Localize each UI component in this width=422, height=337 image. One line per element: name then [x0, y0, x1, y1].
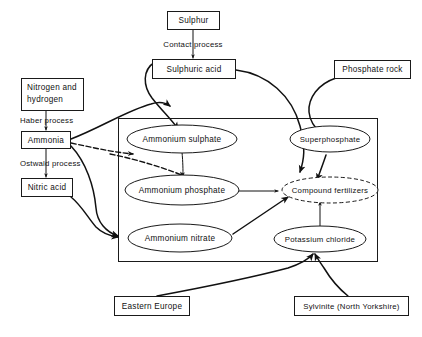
- node-ammonium-phosphate[interactable]: Ammonium phosphate: [125, 175, 239, 205]
- svg-text:Sulphuric acid: Sulphuric acid: [167, 65, 222, 74]
- node-sulphur[interactable]: Sulphur: [168, 12, 220, 30]
- node-sylvinite[interactable]: Sylvinite (North Yorkshire): [295, 297, 409, 316]
- edge-dashed-to-ammonium-phosphate: [110, 154, 184, 176]
- edge-eastern-europe-to-potassium-chloride: [157, 254, 313, 296]
- svg-text:Nitrogen and: Nitrogen and: [27, 83, 77, 92]
- node-nitric-acid[interactable]: Nitric acid: [22, 179, 73, 197]
- svg-text:Ammonium sulphate: Ammonium sulphate: [143, 135, 222, 144]
- node-sulphuric-acid[interactable]: Sulphuric acid: [153, 60, 236, 79]
- svg-text:Ammonia: Ammonia: [28, 136, 65, 145]
- node-potassium-chloride[interactable]: Potassium chloride: [274, 226, 366, 252]
- node-superphosphate[interactable]: Superphosphate: [290, 126, 370, 152]
- svg-text:Sulphur: Sulphur: [179, 16, 209, 25]
- edge-ammonium-sulphate-to-ammonium-phosphate: [182, 152, 183, 176]
- edge-sulphuric-acid-to-compound-fertilizers: [236, 70, 304, 172]
- edge-nitric-acid-to-ammonium-nitrate: [71, 197, 118, 237]
- svg-text:Potassium chloride: Potassium chloride: [285, 235, 355, 244]
- node-ammonia[interactable]: Ammonia: [22, 132, 71, 149]
- svg-text:Phosphate rock: Phosphate rock: [342, 65, 403, 74]
- edge-sylvinite-to-potassium-chloride: [315, 254, 348, 296]
- edge-label-haber-process: Haber process: [20, 116, 73, 125]
- edge-ammonia-to-phosphate-dashed-start: [71, 143, 133, 154]
- svg-text:Compound fertilizers: Compound fertilizers: [292, 186, 369, 195]
- edge-label-ostwald-process: Ostwald process: [20, 159, 81, 168]
- edge-phosphate-rock-to-superphosphate: [309, 78, 336, 133]
- svg-text:Ammonium phosphate: Ammonium phosphate: [139, 186, 226, 195]
- node-compound-fertilizers[interactable]: Compound fertilizers: [282, 177, 378, 203]
- svg-text:Ammonium nitrate: Ammonium nitrate: [145, 234, 216, 243]
- svg-text:Eastern Europe: Eastern Europe: [122, 302, 183, 311]
- node-eastern-europe[interactable]: Eastern Europe: [115, 297, 190, 316]
- node-phosphate-rock[interactable]: Phosphate rock: [335, 61, 411, 79]
- edge-ammonium-nitrate-to-compound-fertilizers: [233, 197, 288, 234]
- node-ammonium-nitrate[interactable]: Ammonium nitrate: [128, 224, 232, 252]
- diagram-canvas: Contact process Haber process Ostwald pr…: [0, 0, 422, 337]
- svg-text:hydrogen: hydrogen: [27, 95, 63, 104]
- node-ammonium-sulphate[interactable]: Ammonium sulphate: [127, 125, 237, 153]
- edge-label-contact-process: Contact process: [163, 40, 222, 49]
- svg-text:Sylvinite (North Yorkshire): Sylvinite (North Yorkshire): [303, 302, 400, 311]
- node-nitrogen-and-hydrogen[interactable]: Nitrogen and hydrogen: [22, 79, 84, 111]
- edge-superphosphate-to-compound-fertilizers: [317, 155, 326, 180]
- svg-text:Nitric acid: Nitric acid: [28, 183, 67, 192]
- svg-text:Superphosphate: Superphosphate: [300, 135, 361, 144]
- fertilizer-flow-diagram: Contact process Haber process Ostwald pr…: [0, 0, 422, 337]
